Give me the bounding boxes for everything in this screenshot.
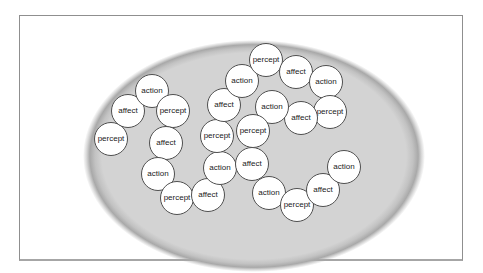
node-label: percept [164, 194, 191, 202]
node-percept: percept [313, 95, 347, 129]
node-label: action [231, 77, 252, 85]
node-action: action [327, 150, 361, 184]
node-label: action [333, 163, 354, 171]
node-label: affect [118, 107, 137, 115]
node-label: action [258, 189, 279, 197]
node-action: action [309, 65, 343, 99]
node-percept: percept [249, 43, 283, 77]
node-label: affect [214, 101, 233, 109]
node-percept: percept [236, 114, 270, 148]
node-percept: percept [200, 119, 234, 153]
node-label: percept [284, 201, 311, 209]
node-percept: percept [160, 181, 194, 215]
node-label: affect [198, 191, 217, 199]
node-label: affect [242, 160, 261, 168]
node-label: affect [313, 186, 332, 194]
node-label: percept [98, 135, 125, 143]
node-label: percept [253, 56, 280, 64]
node-label: affect [291, 114, 310, 122]
node-label: percept [160, 107, 187, 115]
node-percept: percept [156, 94, 190, 128]
node-action: action [203, 151, 237, 185]
node-label: action [261, 103, 282, 111]
node-affect: affect [149, 126, 183, 160]
node-label: action [315, 78, 336, 86]
figure-canvas: perceptaffectactionperceptaffectactionpe… [0, 0, 483, 273]
node-label: percept [204, 132, 231, 140]
node-label: percept [317, 108, 344, 116]
node-label: action [147, 170, 168, 178]
node-label: affect [156, 139, 175, 147]
node-layer: perceptaffectactionperceptaffectactionpe… [0, 0, 483, 273]
node-label: action [209, 164, 230, 172]
node-label: percept [240, 127, 267, 135]
node-label: action [141, 87, 162, 95]
node-label: affect [286, 68, 305, 76]
node-affect: affect [284, 101, 318, 135]
node-affect: affect [279, 55, 313, 89]
